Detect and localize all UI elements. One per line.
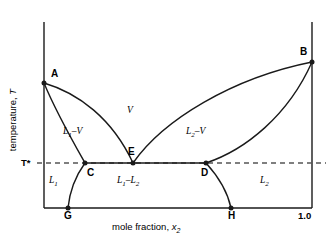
point-label-e: E	[128, 147, 135, 157]
phase-diagram-canvas	[0, 0, 331, 240]
y-axis-title-plain: temperature,	[7, 95, 18, 152]
dew-curve-e-b	[133, 62, 312, 163]
x-axis-title: mole fraction, x2	[112, 222, 180, 234]
point-label-d: D	[201, 168, 208, 178]
dew-curve-a-e	[44, 83, 133, 163]
region-label-l1l2-sub2: 2	[136, 180, 140, 188]
region-label-l1-sub: 1	[54, 180, 58, 188]
region-label-liquid1: L1	[49, 176, 58, 188]
region-label-l2v-tail: –V	[195, 126, 206, 136]
point-label-h: H	[228, 211, 235, 221]
phase-diagram-figure: A B C D E G H V L1–V L2–V L1 L2 L1–L2 T*…	[0, 0, 331, 240]
solubility-curve-c-g	[68, 163, 85, 208]
x-axis-title-sub: 2	[176, 227, 180, 234]
y-axis-title-text: temperature, T	[7, 89, 18, 151]
region-label-liquid2: L2	[260, 176, 269, 188]
point-marker-d	[204, 161, 209, 166]
region-label-liquid2-vapor: L2–V	[186, 127, 205, 139]
region-label-l1v-tail: –V	[72, 126, 83, 136]
point-label-b: B	[300, 47, 307, 57]
point-label-a: A	[51, 69, 58, 79]
region-label-liquid1-vapor: L1–V	[63, 127, 82, 139]
region-label-l2-sub: 2	[265, 180, 269, 188]
x-tick-label-one: 1.0	[298, 211, 311, 221]
region-label-vapor: V	[127, 106, 133, 116]
y-axis-title-symbol: T	[7, 89, 18, 95]
bubble-curve-a-c	[44, 83, 85, 163]
point-marker-a	[42, 81, 47, 86]
region-label-liquid1-liquid2: L1–L2	[117, 176, 139, 188]
point-marker-b	[310, 60, 315, 65]
point-marker-e	[131, 161, 136, 166]
solubility-curve-d-h	[206, 163, 231, 208]
point-label-c: C	[87, 168, 94, 178]
y-axis-title: temperature, T	[0, 68, 24, 172]
point-label-g: G	[64, 211, 72, 221]
x-axis-title-plain: mole fraction,	[112, 221, 172, 232]
point-marker-c	[83, 161, 88, 166]
